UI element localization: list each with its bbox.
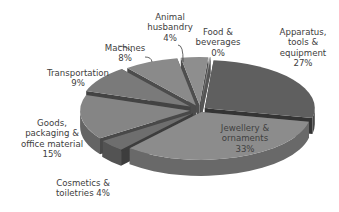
label-machines: Machines 8% <box>95 43 155 64</box>
label-food-beverages: Food & beverages 0% <box>190 27 246 58</box>
label-transportation: Transportation 9% <box>38 68 118 89</box>
pie-chart: Apparatus, tools & equipment 27% Jewelle… <box>0 0 339 212</box>
label-jewellery: Jewellery & ornaments 33% <box>205 123 285 154</box>
label-apparatus: Apparatus, tools & equipment 27% <box>262 27 339 69</box>
label-cosmetics: Cosmetics & toiletries 4% <box>30 178 110 199</box>
label-goods: Goods, packaging & office material 15% <box>12 118 92 160</box>
